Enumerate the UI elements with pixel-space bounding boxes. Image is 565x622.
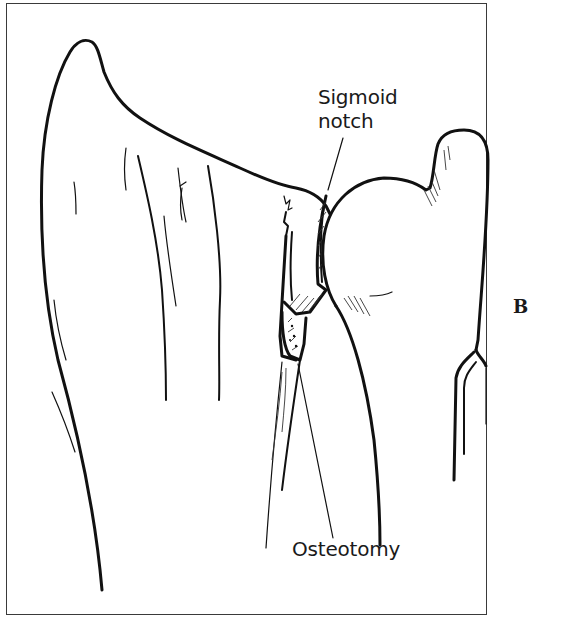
ulna-bone bbox=[323, 130, 488, 545]
osteotomy-label: Osteotomy bbox=[292, 537, 400, 561]
osteotomy-site bbox=[266, 196, 326, 548]
radius-bone bbox=[42, 40, 330, 590]
osteotomy-leader bbox=[298, 364, 333, 538]
anatomical-illustration bbox=[0, 0, 565, 622]
ulnar-shaft bbox=[454, 350, 486, 480]
panel-label: B bbox=[513, 296, 528, 317]
sigmoid-notch-label-line1: Sigmoid bbox=[318, 85, 398, 109]
sigmoid-notch-label: Sigmoid notch bbox=[318, 85, 398, 133]
sigmoid-notch-leader bbox=[328, 138, 343, 190]
sigmoid-notch-label-line2: notch bbox=[318, 109, 398, 133]
